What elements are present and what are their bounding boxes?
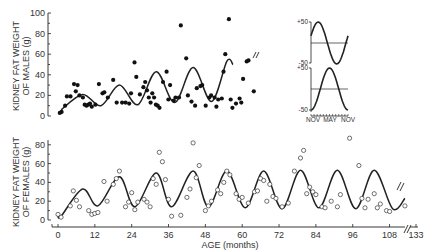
male-data-point bbox=[214, 105, 218, 109]
male-data-point bbox=[165, 70, 169, 74]
inset-top: +50 -50 bbox=[297, 18, 348, 66]
male-data-point bbox=[115, 101, 119, 105]
female-data-point bbox=[375, 206, 379, 210]
female-data-point bbox=[114, 177, 118, 181]
female-data-point bbox=[268, 182, 272, 186]
svg-text:24: 24 bbox=[127, 230, 137, 240]
svg-text:KIDNEY FAT WEIGHT: KIDNEY FAT WEIGHT bbox=[11, 136, 21, 227]
male-data-point bbox=[97, 82, 101, 86]
male-data-point bbox=[241, 77, 245, 81]
male-data-point bbox=[124, 101, 128, 105]
svg-text:20: 20 bbox=[35, 196, 45, 206]
male-data-point bbox=[77, 93, 81, 97]
male-data-point bbox=[227, 17, 231, 21]
svg-text:40: 40 bbox=[35, 177, 45, 187]
female-data-point bbox=[154, 182, 158, 186]
male-data-point bbox=[60, 110, 64, 114]
female-data-point bbox=[87, 209, 91, 213]
male-data-point bbox=[157, 106, 161, 110]
male-data-point bbox=[129, 91, 133, 95]
svg-text:+50: +50 bbox=[297, 64, 308, 71]
male-data-point bbox=[68, 94, 72, 98]
female-data-point bbox=[170, 214, 174, 218]
svg-text:0: 0 bbox=[40, 215, 45, 225]
female-data-point bbox=[323, 206, 327, 210]
female-data-point bbox=[305, 192, 309, 196]
male-data-point bbox=[179, 23, 183, 27]
female-data-point bbox=[148, 205, 152, 209]
female-data-point bbox=[191, 141, 195, 145]
female-data-point bbox=[225, 169, 229, 173]
svg-text:0: 0 bbox=[55, 230, 60, 240]
female-data-point bbox=[338, 193, 342, 197]
male-data-point bbox=[72, 82, 76, 86]
female-data-point bbox=[163, 178, 167, 182]
female-data-point bbox=[298, 156, 302, 160]
svg-text:60: 60 bbox=[237, 230, 247, 240]
male-data-point bbox=[149, 101, 153, 105]
svg-text:60: 60 bbox=[35, 159, 45, 169]
male-data-point bbox=[168, 83, 172, 87]
female-data-point bbox=[151, 177, 155, 181]
female-data-point bbox=[308, 185, 312, 189]
female-data-point bbox=[59, 215, 63, 219]
female-data-point bbox=[222, 180, 226, 184]
svg-text:108: 108 bbox=[382, 230, 397, 240]
x-axis: 01224364860728496108133 bbox=[52, 224, 424, 240]
svg-text:133: 133 bbox=[408, 230, 423, 240]
female-data-point bbox=[280, 205, 284, 209]
female-data-point bbox=[240, 195, 244, 199]
svg-text:NOV: NOV bbox=[306, 116, 321, 123]
female-data-point bbox=[160, 160, 164, 164]
male-data-point bbox=[216, 97, 220, 101]
female-data-point bbox=[388, 209, 392, 213]
female-data-point bbox=[117, 169, 121, 173]
inset-bottom: +50 -50 bbox=[297, 64, 348, 113]
svg-text:KIDNEY FAT WEIGHT: KIDNEY FAT WEIGHT bbox=[11, 20, 21, 111]
males-y-axis-title: KIDNEY FAT WEIGHT OF MALES (g) bbox=[11, 20, 31, 111]
seasonal-inset: +50 -50 +50 -50 NOV MAY NOV bbox=[297, 18, 356, 123]
svg-text:40: 40 bbox=[35, 70, 45, 80]
female-data-point bbox=[360, 196, 364, 200]
male-data-point bbox=[220, 96, 224, 100]
male-data-point bbox=[221, 70, 225, 74]
female-data-point bbox=[329, 199, 333, 203]
male-data-point bbox=[234, 102, 238, 106]
svg-text:-50: -50 bbox=[299, 106, 309, 113]
male-data-point bbox=[189, 100, 193, 104]
male-data-point bbox=[65, 94, 69, 98]
female-data-point bbox=[188, 187, 192, 191]
female-data-point bbox=[378, 202, 382, 206]
svg-text:72: 72 bbox=[274, 230, 284, 240]
male-data-point bbox=[90, 105, 94, 109]
svg-text:80: 80 bbox=[35, 140, 45, 150]
males-y-axis: 020406080100 bbox=[30, 8, 51, 121]
female-data-point bbox=[179, 213, 183, 217]
svg-text:OF MALES (g): OF MALES (g) bbox=[21, 36, 31, 95]
female-data-point bbox=[234, 192, 238, 196]
female-data-point bbox=[111, 182, 115, 186]
curve-break-marker-females bbox=[397, 182, 404, 191]
male-data-point bbox=[111, 78, 115, 82]
svg-text:12: 12 bbox=[90, 230, 100, 240]
male-data-point bbox=[213, 95, 217, 99]
x-axis-title: AGE (months) bbox=[201, 240, 258, 250]
female-data-point bbox=[274, 196, 278, 200]
male-data-point bbox=[76, 83, 80, 87]
svg-text:80: 80 bbox=[35, 29, 45, 39]
male-data-point bbox=[74, 89, 78, 93]
svg-text:100: 100 bbox=[30, 8, 45, 18]
males-data-points bbox=[58, 17, 256, 115]
male-data-point bbox=[239, 101, 243, 105]
male-data-point bbox=[150, 91, 154, 95]
female-data-point bbox=[209, 199, 213, 203]
male-data-point bbox=[132, 60, 136, 64]
male-data-point bbox=[238, 96, 242, 100]
female-data-point bbox=[130, 191, 134, 195]
male-data-point bbox=[230, 106, 234, 110]
male-data-point bbox=[193, 104, 197, 108]
female-data-point bbox=[357, 163, 361, 167]
male-data-point bbox=[81, 95, 85, 99]
male-data-point bbox=[143, 80, 147, 84]
females-y-axis: 020406080 bbox=[35, 140, 51, 225]
